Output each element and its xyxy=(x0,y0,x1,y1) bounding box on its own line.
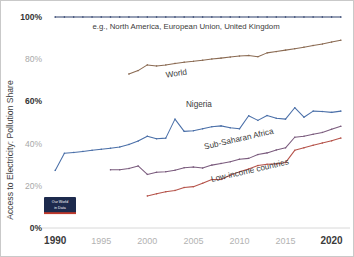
data-point xyxy=(193,186,194,187)
y-tick-100: 100% xyxy=(20,12,42,22)
data-point xyxy=(165,171,166,172)
x-tick-2020: 2020 xyxy=(320,235,343,246)
data-point xyxy=(137,16,138,17)
data-point xyxy=(340,40,341,41)
data-point xyxy=(110,16,111,17)
data-point xyxy=(322,132,323,133)
data-point xyxy=(313,45,314,46)
series-label-low-income-countries: Low-income countries xyxy=(210,157,290,184)
data-point xyxy=(220,163,221,164)
x-tick-2015: 2015 xyxy=(275,236,295,246)
y-tick-20: 20% xyxy=(25,181,42,191)
data-point xyxy=(156,138,157,139)
data-point xyxy=(137,140,138,141)
series-sub-saharan-africa xyxy=(110,126,342,175)
chart-border xyxy=(1,1,354,257)
series-high-income-group xyxy=(55,16,342,17)
data-point xyxy=(202,128,203,129)
data-point xyxy=(73,16,74,17)
data-point xyxy=(64,153,65,154)
data-point xyxy=(147,174,148,175)
data-point xyxy=(128,16,129,17)
y-tick-60: 60% xyxy=(25,96,42,106)
owid-logo-line2: in Data xyxy=(54,206,65,210)
data-point xyxy=(322,16,323,17)
data-point xyxy=(294,48,295,49)
data-point xyxy=(230,127,231,128)
data-point xyxy=(165,191,166,192)
data-point xyxy=(331,41,332,42)
data-point xyxy=(91,16,92,17)
data-point xyxy=(313,110,314,111)
data-point xyxy=(230,16,231,17)
data-point xyxy=(119,146,120,147)
data-point xyxy=(303,136,304,137)
data-point xyxy=(119,16,120,17)
data-point xyxy=(165,64,166,65)
data-point xyxy=(55,170,56,171)
y-axis-title: Access to Electricity: Pollution Share xyxy=(5,80,15,220)
data-point xyxy=(285,118,286,119)
data-point xyxy=(331,16,332,17)
data-point xyxy=(110,169,111,170)
data-point xyxy=(230,161,231,162)
series-label-world: World xyxy=(165,67,188,79)
data-point xyxy=(322,43,323,44)
x-tick-2010: 2010 xyxy=(229,236,249,246)
data-point xyxy=(257,56,258,57)
x-tick-1990: 1990 xyxy=(44,235,67,246)
data-point xyxy=(193,130,194,131)
data-point xyxy=(220,16,221,17)
data-point xyxy=(174,170,175,171)
data-point xyxy=(340,126,341,127)
series-line xyxy=(110,126,340,174)
data-point xyxy=(220,57,221,58)
annotation-layer: e.g., North America, European Union, Uni… xyxy=(92,22,279,31)
series-nigeria xyxy=(55,107,342,171)
data-point xyxy=(266,16,267,17)
data-point xyxy=(101,149,102,150)
data-point xyxy=(211,58,212,59)
data-point xyxy=(91,150,92,151)
data-point xyxy=(82,151,83,152)
x-tick-2000: 2000 xyxy=(137,236,157,246)
line-chart: 100%80%60%40%20%0% 199019952000200520102… xyxy=(0,0,354,257)
y-tick-80: 80% xyxy=(25,54,42,64)
data-point xyxy=(193,166,194,167)
data-point xyxy=(202,183,203,184)
data-point xyxy=(248,55,249,56)
data-point xyxy=(266,52,267,53)
y-axis-tick-labels: 100%80%60%40%20%0% xyxy=(20,12,42,233)
data-point xyxy=(193,61,194,62)
data-point xyxy=(128,168,129,169)
data-point xyxy=(285,49,286,50)
data-point xyxy=(276,118,277,119)
x-tick-2005: 2005 xyxy=(183,236,203,246)
series-line xyxy=(55,108,341,171)
data-point xyxy=(193,16,194,17)
data-point xyxy=(156,65,157,66)
data-point xyxy=(266,152,267,153)
owid-logo-line1: Our World xyxy=(52,200,68,204)
data-point xyxy=(340,137,341,138)
data-point xyxy=(202,60,203,61)
data-point xyxy=(64,16,65,17)
x-axis-tick-labels: 1990199520002005201020152020 xyxy=(44,235,343,246)
data-point xyxy=(322,142,323,143)
data-point xyxy=(128,73,129,74)
data-point xyxy=(230,56,231,57)
data-point xyxy=(257,154,258,155)
data-point xyxy=(285,16,286,17)
series-label-sub-saharan-africa: Sub-Saharan Africa xyxy=(203,127,275,152)
data-point xyxy=(184,16,185,17)
chart-container: 100%80%60%40%20%0% 199019952000200520102… xyxy=(0,0,354,257)
data-point xyxy=(239,55,240,56)
data-point xyxy=(276,51,277,52)
series-world xyxy=(128,40,341,75)
data-point xyxy=(303,47,304,48)
data-point xyxy=(55,16,56,17)
data-point xyxy=(128,144,129,145)
our-world-in-data-logo: Our World in Data xyxy=(44,197,76,214)
data-point xyxy=(184,187,185,188)
data-point xyxy=(174,63,175,64)
